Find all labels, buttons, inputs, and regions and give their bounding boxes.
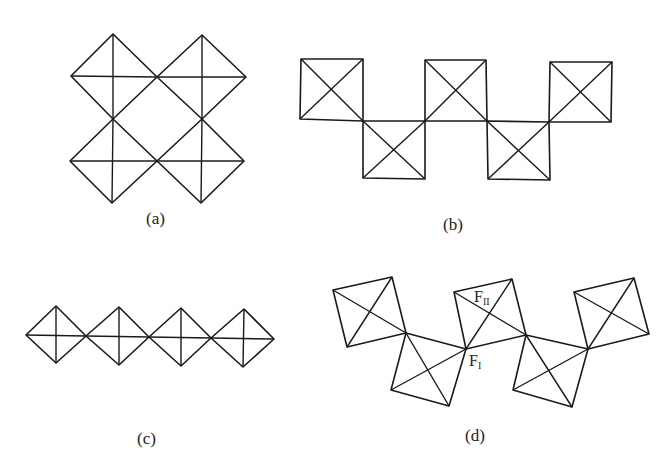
caption-a: (a) [146, 209, 165, 228]
square-b4 [487, 121, 550, 180]
square-b5 [549, 62, 612, 122]
square-d4 [513, 335, 588, 407]
label-f-two: FII [474, 288, 490, 307]
diamond-a1 [71, 34, 157, 119]
square-d5 [574, 278, 649, 349]
diamond-a2 [157, 35, 246, 119]
square-b2 [363, 121, 425, 179]
diamond-c3 [149, 308, 211, 366]
square-d3 [454, 279, 526, 349]
panel-c: (c) [26, 306, 274, 448]
square-b3 [425, 60, 487, 121]
diamond-c1 [26, 306, 86, 363]
diamond-c4 [211, 309, 274, 367]
panel-a: (a) [70, 34, 246, 228]
figure-canvas: (a) (b) [0, 0, 668, 471]
caption-b: (b) [443, 215, 463, 234]
panel-b: (b) [300, 59, 612, 234]
diamond-a3 [70, 119, 157, 203]
panel-d: FII FI (d) [333, 277, 649, 445]
caption-d: (d) [465, 426, 485, 445]
label-f-one: FI [469, 352, 481, 371]
diamond-c2 [86, 307, 149, 365]
square-b1 [300, 59, 363, 121]
caption-c: (c) [137, 429, 156, 448]
square-d1 [333, 277, 406, 347]
diamond-a4 [157, 119, 244, 203]
square-d2 [391, 333, 466, 406]
polyhedra-diagram: (a) (b) [0, 0, 668, 471]
